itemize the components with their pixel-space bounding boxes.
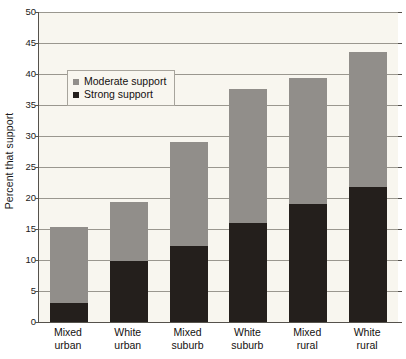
y-axis-tick-right bbox=[398, 74, 402, 75]
y-axis-tick-label: 50 bbox=[14, 7, 36, 17]
y-axis-tick-right bbox=[398, 260, 402, 261]
legend-swatch-strong-support bbox=[73, 92, 79, 98]
y-axis-tick-right bbox=[398, 12, 402, 13]
y-axis-tick-right bbox=[398, 291, 402, 292]
chart-legend: Moderate support Strong support bbox=[67, 70, 175, 106]
y-axis-tick-label: 30 bbox=[14, 131, 36, 141]
bar-segment-moderate-support bbox=[50, 227, 88, 303]
y-axis-tick-right bbox=[398, 229, 402, 230]
x-axis-tick-label: Mixedrural bbox=[277, 326, 337, 351]
y-axis-tick-label: 45 bbox=[14, 38, 36, 48]
legend-swatch-moderate-support bbox=[73, 79, 79, 85]
bar-segment-moderate-support bbox=[110, 202, 148, 262]
bar-segment-strong-support bbox=[289, 204, 327, 322]
x-axis-tick-label: Mixedurban bbox=[38, 326, 98, 351]
y-axis-tick-label: 40 bbox=[14, 69, 36, 79]
y-axis-tick-label: 5 bbox=[14, 286, 36, 296]
bar-segment-moderate-support bbox=[229, 89, 267, 223]
legend-label-strong-support: Strong support bbox=[84, 89, 153, 100]
y-axis-tick-right bbox=[398, 136, 402, 137]
y-axis-tick-label: 35 bbox=[14, 100, 36, 110]
y-axis-tick-label: 20 bbox=[14, 193, 36, 203]
y-axis-tick-right bbox=[398, 167, 402, 168]
x-axis-tick-labels: MixedurbanWhiteurbanMixedsuburbWhitesubu… bbox=[38, 326, 397, 359]
y-axis-tick-labels: 05101520253035404550 bbox=[14, 12, 36, 322]
y-axis-tick-label: 0 bbox=[14, 317, 36, 327]
legend-item-moderate-support: Moderate support bbox=[73, 75, 166, 88]
y-axis-tick-right bbox=[398, 105, 402, 106]
bar-segment-strong-support bbox=[229, 223, 267, 322]
y-axis-tick-right bbox=[398, 198, 402, 199]
bar-segment-moderate-support bbox=[289, 78, 327, 204]
bars-layer bbox=[39, 12, 398, 322]
plot-area: Moderate support Strong support bbox=[38, 12, 398, 323]
y-axis-tick-label: 10 bbox=[14, 255, 36, 265]
bar-segment-moderate-support bbox=[170, 142, 208, 246]
y-axis-tick-right bbox=[398, 322, 402, 323]
x-axis-tick-label: Whiteurban bbox=[98, 326, 158, 351]
bar-segment-strong-support bbox=[50, 303, 88, 322]
bar-segment-moderate-support bbox=[349, 52, 387, 187]
x-axis-tick-label: Mixedsuburb bbox=[158, 326, 218, 351]
legend-label-moderate-support: Moderate support bbox=[84, 76, 166, 87]
legend-item-strong-support: Strong support bbox=[73, 88, 166, 101]
bar-segment-strong-support bbox=[170, 246, 208, 322]
y-axis-tick-label: 15 bbox=[14, 224, 36, 234]
bar-segment-strong-support bbox=[110, 261, 148, 322]
bar-segment-strong-support bbox=[349, 187, 387, 322]
stacked-bar-chart: Percent that support 0510152025303540455… bbox=[0, 0, 406, 359]
y-axis-tick-label: 25 bbox=[14, 162, 36, 172]
y-axis-tick-right bbox=[398, 43, 402, 44]
x-axis-tick-label: Whitesuburb bbox=[217, 326, 277, 351]
x-axis-tick-label: Whiterural bbox=[337, 326, 397, 351]
